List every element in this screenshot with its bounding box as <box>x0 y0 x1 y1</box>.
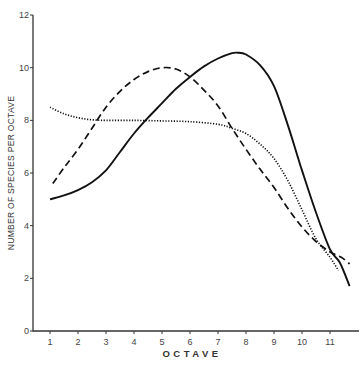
x-tick-label: 7 <box>215 337 220 347</box>
x-tick-label: 3 <box>103 337 108 347</box>
x-tick-label: 10 <box>297 337 307 347</box>
x-tick-label: 2 <box>75 337 80 347</box>
y-tick-label: 2 <box>24 273 29 283</box>
y-tick-label: 6 <box>24 168 29 178</box>
series-line-dashed <box>53 68 350 264</box>
x-tick-label: 6 <box>187 337 192 347</box>
y-tick-label: 12 <box>19 10 29 20</box>
y-tick-label: 10 <box>19 63 29 73</box>
y-axis: 024681012 <box>19 10 33 336</box>
x-tick-label: 8 <box>243 337 248 347</box>
y-tick-label: 8 <box>24 115 29 125</box>
y-tick-label: 0 <box>24 326 29 336</box>
line-chart: 024681012 1234567891011 NUMBER OF SPECIE… <box>0 0 362 368</box>
x-axis: 1234567891011 <box>33 331 359 347</box>
y-axis-title: NUMBER OF SPECIES PER OCTAVE <box>6 96 16 251</box>
x-tick-label: 1 <box>47 337 52 347</box>
series-layer <box>50 53 350 287</box>
series-line-solid <box>50 53 350 287</box>
x-tick-label: 5 <box>159 337 164 347</box>
y-tick-label: 4 <box>24 221 29 231</box>
x-tick-label: 9 <box>271 337 276 347</box>
x-tick-label: 11 <box>325 337 334 347</box>
series-line-dotted <box>50 107 338 270</box>
x-axis-title: OCTAVE <box>162 348 221 359</box>
x-tick-label: 4 <box>131 337 136 347</box>
